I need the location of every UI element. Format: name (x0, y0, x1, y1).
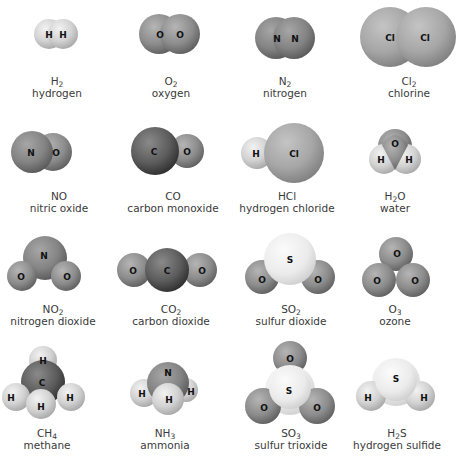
molecule-o3: O O O O3 ozone (344, 228, 458, 340)
atom-h: H (138, 389, 146, 399)
atom-cl: Cl (385, 33, 395, 43)
molecule-h2: H H H2 hydrogen (0, 0, 114, 112)
atom-c: C (39, 378, 46, 388)
molecule-ch4: H C H H H CH4 methane (0, 340, 114, 463)
molecule-name: sulfur dioxide (234, 315, 348, 327)
molecule-name: carbon monoxide (116, 202, 230, 214)
atom-h: H (252, 149, 260, 159)
atom-h: H (405, 155, 413, 165)
atom-o: O (373, 276, 381, 286)
formula: NO (2, 190, 116, 202)
formula: H2 (0, 75, 114, 87)
atom-c: C (151, 147, 158, 157)
atom-o: O (198, 266, 206, 276)
atom-h: H (66, 393, 74, 403)
formula: CO2 (114, 303, 228, 315)
molecule-nh3: N H H H NH3 ammonia (114, 340, 228, 463)
h2s-model: S H H (344, 340, 458, 425)
atom-c: C (164, 266, 171, 276)
atom-h: H (165, 395, 173, 405)
n2-model: N N (228, 0, 342, 70)
atom-s: S (287, 255, 293, 265)
formula: NO2 (0, 303, 110, 315)
atom-h: H (37, 402, 45, 412)
molecule-co2: O C O CO2 carbon dioxide (114, 228, 228, 340)
molecule-label: H2O water (338, 190, 452, 214)
molecule-label: SO2 sulfur dioxide (234, 303, 348, 327)
atom-h: H (364, 393, 372, 403)
molecule-cl2: Cl Cl Cl2 chlorine (344, 0, 458, 112)
atom-o: O (63, 272, 71, 282)
formula: SO2 (234, 303, 348, 315)
atom-o: O (260, 403, 268, 413)
molecule-h2s: S H H H2S hydrogen sulfide (344, 340, 458, 463)
cl2-model: Cl Cl (344, 0, 458, 72)
molecule-label: NO nitric oxide (2, 190, 116, 214)
atom-o: O (393, 249, 401, 259)
atom-o: O (313, 403, 321, 413)
molecule-name: sulfur trioxide (234, 439, 348, 451)
atom-h: H (377, 155, 385, 165)
molecule-so3: O S O O SO3 sulfur trioxide (236, 340, 350, 463)
h2-model: H H (0, 0, 114, 70)
atom-o: O (52, 148, 60, 158)
so3-model: O S O O (236, 340, 350, 425)
atom-h: H (39, 356, 47, 366)
molecule-name: methane (0, 439, 104, 451)
molecule-name: ozone (338, 315, 452, 327)
molecule-name: carbon dioxide (114, 315, 228, 327)
molecule-label: O2 oxygen (114, 75, 228, 99)
molecule-name: water (338, 202, 452, 214)
co2-model: O C O (114, 228, 228, 303)
atom-o: O (129, 266, 137, 276)
molecule-name: nitrogen dioxide (0, 315, 110, 327)
atom-o: O (286, 354, 294, 364)
o3-model: O O O (344, 228, 458, 303)
atom-h: H (7, 393, 15, 403)
molecule-label: NO2 nitrogen dioxide (0, 303, 110, 327)
atom-n: N (27, 148, 35, 158)
molecule-label: HCl hydrogen chloride (230, 190, 344, 214)
no-model: N O (0, 115, 114, 190)
atom-o: O (411, 276, 419, 286)
molecule-name: ammonia (108, 439, 222, 451)
atom-o: O (258, 275, 266, 285)
molecule-label: CO2 carbon dioxide (114, 303, 228, 327)
molecule-label: NH3 ammonia (108, 427, 222, 451)
formula: HCl (230, 190, 344, 202)
ch4-model: H C H H H (0, 340, 114, 425)
atom-n: N (291, 34, 299, 44)
h2o-model: O H H (344, 115, 458, 190)
molecule-name: hydrogen (0, 87, 114, 99)
atom-o: O (156, 30, 164, 40)
atom-h: H (187, 387, 195, 397)
atom-h: H (45, 30, 53, 40)
formula: O3 (338, 303, 452, 315)
molecule-name: nitrogen (228, 87, 342, 99)
formula: H2O (338, 190, 452, 202)
o2-model: O O (114, 0, 228, 70)
atom-o: O (183, 147, 191, 157)
molecule-name: hydrogen chloride (230, 202, 344, 214)
atom-s: S (286, 386, 292, 396)
molecule-o2: O O O2 oxygen (114, 0, 228, 112)
molecule-label: Cl2 chlorine (352, 75, 458, 99)
hcl-model: H Cl (230, 115, 344, 190)
molecule-n2: N N N2 nitrogen (228, 0, 342, 112)
co-model: C O (114, 115, 228, 190)
molecule-so2: S O O SO2 sulfur dioxide (240, 228, 354, 340)
atom-n: N (40, 251, 48, 261)
molecule-name: chlorine (352, 87, 458, 99)
atom-o: O (176, 30, 184, 40)
molecule-label: CH4 methane (0, 427, 104, 451)
molecule-hcl: H Cl HCl hydrogen chloride (230, 115, 344, 227)
molecule-label: SO3 sulfur trioxide (234, 427, 348, 451)
molecule-label: H2 hydrogen (0, 75, 114, 99)
formula: O2 (114, 75, 228, 87)
atom-h: H (420, 393, 428, 403)
molecule-label: N2 nitrogen (228, 75, 342, 99)
formula: CH4 (0, 427, 104, 439)
no2-model: N O O (0, 228, 114, 303)
molecule-h2o: O H H H2O water (344, 115, 458, 227)
formula: N2 (228, 75, 342, 87)
